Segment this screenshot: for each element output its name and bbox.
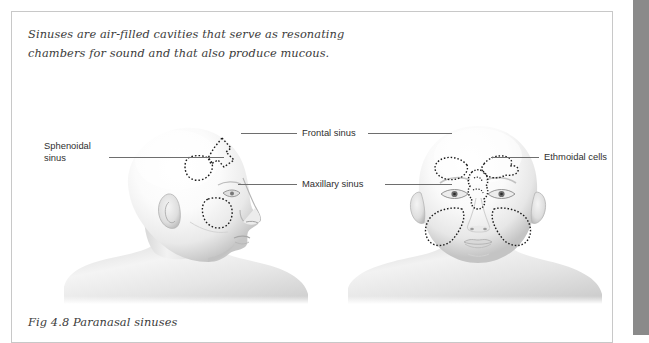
label-ethmoidal-cells: Ethmoidal cells bbox=[544, 151, 607, 163]
label-sphenoidal-line-1: Sphenoidal bbox=[44, 140, 91, 152]
leader-line-ethmoidal bbox=[491, 157, 539, 158]
leader-line-frontal-right bbox=[368, 133, 452, 134]
figure-box: Sinuses are air-filled cavities that ser… bbox=[11, 11, 613, 343]
leader-line-frontal-left bbox=[241, 133, 297, 134]
leader-line-maxillary-right bbox=[385, 184, 452, 185]
intro-paragraph: Sinuses are air-filled cavities that ser… bbox=[28, 25, 388, 63]
label-frontal-sinus: Frontal sinus bbox=[302, 127, 356, 139]
leader-line-sphenoidal bbox=[109, 157, 224, 158]
leader-line-maxillary-left bbox=[238, 184, 297, 185]
label-sphenoidal-sinus: Sphenoidal sinus bbox=[44, 140, 91, 163]
label-sphenoidal-line-2: sinus bbox=[44, 152, 91, 164]
intro-line-2: chambers for sound and that also produce… bbox=[28, 44, 388, 63]
page-gutter-bar bbox=[633, 0, 649, 335]
intro-line-1: Sinuses are air-filled cavities that ser… bbox=[28, 25, 388, 44]
label-maxillary-sinus: Maxillary sinus bbox=[302, 178, 363, 190]
figure-caption: Fig 4.8 Paranasal sinuses bbox=[28, 315, 178, 329]
